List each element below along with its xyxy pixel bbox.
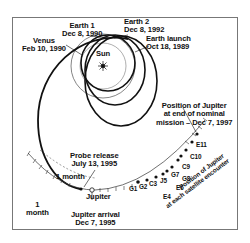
encounter-e11: E11 xyxy=(196,141,207,148)
encounter-c10: C10 xyxy=(190,153,201,160)
launch-label: Earth launch Oct 18, 1989 xyxy=(146,35,191,52)
jupiter-arrival-label: Jupiter arrival Dec 7, 1995 xyxy=(71,211,120,228)
one-month-label-a: 1 month xyxy=(56,173,85,181)
probe-release-line2: July 13, 1995 xyxy=(70,160,119,168)
trajectory-loop-2 xyxy=(85,35,145,105)
earth2-label: Earth 2 Dec 8, 1992 xyxy=(124,18,164,35)
earth1-label: Earth 1 Dec 8, 1990 xyxy=(62,22,102,39)
arrival-point xyxy=(79,187,82,190)
encounter-j5: J5 xyxy=(160,177,167,184)
encounter-c9: C9 xyxy=(182,163,190,170)
jupiter-arrival-line2: Dec 7, 1995 xyxy=(71,219,120,227)
encounter-g2: G2 xyxy=(139,183,147,190)
end-mission-line3: mission – Dec 7, 1997 xyxy=(156,119,232,127)
jupiter-label: Jupiter xyxy=(86,193,111,201)
earth1-date: Dec 8, 1990 xyxy=(62,30,102,38)
encounter-g1: G1 xyxy=(129,185,137,192)
venus-date: Feb 10, 1990 xyxy=(22,45,66,53)
galileo-trajectory-diagram: Earth 1 Dec 8, 1990 Earth 2 Dec 8, 1992 … xyxy=(0,0,250,243)
probe-release-label: Probe release July 13, 1995 xyxy=(70,152,119,169)
venus-label: Venus Feb 10, 1990 xyxy=(22,37,66,54)
encounter-g7: G7 xyxy=(171,171,179,178)
one-month-label-b: 1 month xyxy=(26,201,49,218)
one-month-b-line2: month xyxy=(26,209,49,217)
sun-label: Sun xyxy=(96,50,110,58)
launch-date: Oct 18, 1989 xyxy=(146,43,191,51)
end-mission-label: Position of Jupiter at end of nominal mi… xyxy=(156,102,232,127)
encounter-c3: C3 xyxy=(149,180,157,187)
sun-icon xyxy=(98,61,108,71)
